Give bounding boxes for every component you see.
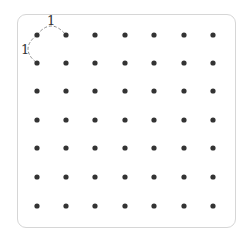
unit-arc-left (28, 35, 37, 63)
grid-dot (63, 32, 68, 37)
grid-dot (63, 145, 68, 150)
grid-dot (210, 174, 215, 179)
grid-dot (63, 60, 68, 65)
grid-dot (34, 117, 39, 122)
grid-dot (92, 145, 97, 150)
grid-dot (122, 174, 127, 179)
grid-dot (210, 117, 215, 122)
grid-dot (122, 32, 127, 37)
grid-dot (151, 174, 156, 179)
grid-dot (122, 60, 127, 65)
grid-dot (34, 32, 39, 37)
grid-dot (92, 32, 97, 37)
grid-dot (151, 145, 156, 150)
grid-dot (151, 88, 156, 93)
grid-dot (34, 203, 39, 208)
grid-dot (181, 117, 186, 122)
grid-dot (210, 203, 215, 208)
grid-dot (122, 117, 127, 122)
grid-dot (92, 117, 97, 122)
grid-dot (181, 88, 186, 93)
grid-dot (122, 145, 127, 150)
grid-dot (34, 60, 39, 65)
grid-dot (151, 203, 156, 208)
grid-dot (181, 60, 186, 65)
grid-dot (210, 60, 215, 65)
grid-dot (92, 174, 97, 179)
grid-dot (181, 203, 186, 208)
grid-dot (92, 88, 97, 93)
grid-dot (210, 88, 215, 93)
top-unit-label: 1 (47, 14, 55, 27)
grid-dot (181, 174, 186, 179)
grid-dot (151, 32, 156, 37)
grid-dot (210, 145, 215, 150)
grid-dot (34, 88, 39, 93)
grid-dot (210, 32, 215, 37)
grid-dot (92, 60, 97, 65)
grid-dot (63, 117, 68, 122)
left-unit-label: 1 (21, 43, 29, 56)
grid-dot (181, 32, 186, 37)
dot-grid (0, 0, 245, 235)
grid-dot (63, 174, 68, 179)
grid-dot (63, 203, 68, 208)
grid-dot (63, 88, 68, 93)
grid-dot (151, 117, 156, 122)
grid-dot (34, 174, 39, 179)
grid-dot (92, 203, 97, 208)
grid-dot (122, 88, 127, 93)
grid-dot (122, 203, 127, 208)
grid-dot (34, 145, 39, 150)
grid-dot (181, 145, 186, 150)
grid-dot (151, 60, 156, 65)
